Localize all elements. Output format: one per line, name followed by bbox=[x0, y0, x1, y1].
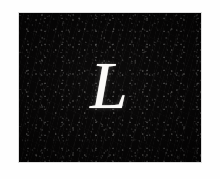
subject-letter-glyph: L bbox=[90, 51, 128, 119]
figure-root: L bbox=[0, 0, 220, 179]
dark-background-plate: L bbox=[19, 13, 201, 162]
letter-glyph-layer: L bbox=[19, 13, 201, 162]
